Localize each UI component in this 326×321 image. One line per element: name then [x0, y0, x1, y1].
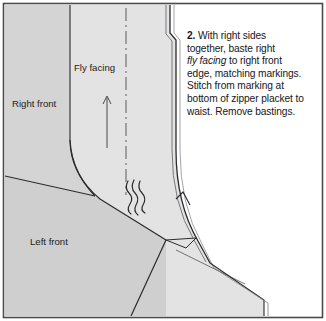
- label-left-front: Left front: [30, 236, 68, 247]
- caption-line-2: together, baste right: [187, 43, 275, 54]
- illustration-figure: Fly facing Right front Left front 2. Wit…: [0, 0, 326, 321]
- caption-line-5: Stitch from marking at: [187, 80, 284, 91]
- caption-line-1: With right sides: [195, 30, 266, 41]
- caption-line-6: bottom of zipper placket to: [187, 93, 304, 104]
- instruction-caption: 2. With right sides together, baste righ…: [187, 30, 315, 118]
- caption-line-4: edge, matching markings.: [187, 68, 301, 79]
- caption-line-7: waist. Remove bastings.: [187, 106, 295, 117]
- label-fly-facing: Fly facing: [74, 62, 115, 73]
- caption-line-3: to right front: [226, 55, 282, 66]
- caption-term-fly-facing: fly facing: [187, 55, 226, 66]
- label-right-front: Right front: [12, 98, 57, 109]
